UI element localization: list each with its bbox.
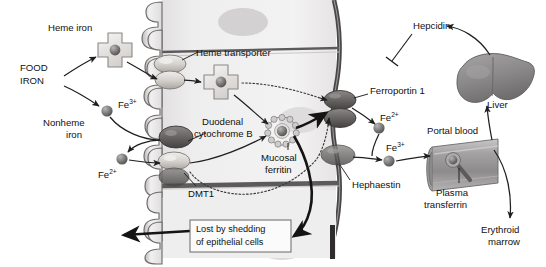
label-fe2-extracellular: Fe2+ xyxy=(98,168,117,180)
label-erythroid-marrow-line1: Erythroid xyxy=(481,224,519,235)
label-mucosal-ferritin-line1: Mucosal xyxy=(261,152,297,163)
label-liver: Liver xyxy=(487,99,509,110)
label-heme-transporter: Heme transporter xyxy=(196,47,271,58)
membrane-edge-bar xyxy=(330,225,335,259)
label-mucosal-ferritin-line2: ferritin xyxy=(265,164,292,175)
label-erythroid-marrow-line2: marrow xyxy=(488,236,520,247)
label-fe2-serosal: Fe2+ xyxy=(380,111,399,123)
label-plasma-transferrin-line2: transferrin xyxy=(424,199,467,210)
label-food-iron-line2: IRON xyxy=(20,75,44,86)
label-dcytb-line2: cytochrome B xyxy=(194,128,253,139)
iron-sphere-fe3-extracellular xyxy=(101,105,112,116)
label-dmt1: DMT1 xyxy=(188,188,214,199)
label-hepcidin: Hepcidin xyxy=(413,20,450,31)
label-shedding-line1: Lost by shedding xyxy=(196,224,265,234)
label-fe3-extracellular: Fe3+ xyxy=(118,98,137,110)
heme-molecule-extracellular xyxy=(98,33,132,67)
label-heme-iron: Heme iron xyxy=(48,22,92,33)
liver-icon xyxy=(457,54,534,103)
label-dcytb-line1: Duodenal xyxy=(202,116,243,127)
label-nonheme-iron-line2: iron xyxy=(66,129,82,140)
iron-sphere-icon xyxy=(216,77,227,88)
nucleus xyxy=(218,8,268,36)
duodenal-cytochrome-b-protein xyxy=(159,126,193,148)
iron-sphere-fe2-extracellular xyxy=(116,153,127,164)
label-food-iron-line1: FOOD xyxy=(20,62,48,73)
portal-vessel-icon xyxy=(427,139,498,191)
iron-sphere-fe3-serosal xyxy=(383,155,394,166)
label-shedding-line2: of epithelial cells xyxy=(196,237,264,247)
label-plasma-transferrin-line1: Plasma xyxy=(436,187,469,198)
label-fe3-serosal: Fe3+ xyxy=(386,141,405,153)
inhibition-tbar-icon xyxy=(386,34,412,66)
hephaestin-protein xyxy=(321,145,355,165)
iron-absorption-diagram: FOOD IRON Heme iron Nonheme iron Fe3+ Fe… xyxy=(0,0,546,267)
microvilli-brush-border xyxy=(142,2,162,264)
label-nonheme-iron-line1: Nonheme xyxy=(43,117,85,128)
iron-sphere-icon xyxy=(110,45,121,56)
label-ferroportin: Ferroportin 1 xyxy=(370,85,425,96)
diagram-canvas: FOOD IRON Heme iron Nonheme iron Fe3+ Fe… xyxy=(0,0,546,267)
label-hephaestin: Hephaestin xyxy=(352,179,401,190)
iron-sphere-fe2-serosal xyxy=(373,122,384,133)
label-portal-blood: Portal blood xyxy=(427,125,478,136)
shedding-callout-box: Lost by shedding of epithelial cells xyxy=(190,220,291,252)
